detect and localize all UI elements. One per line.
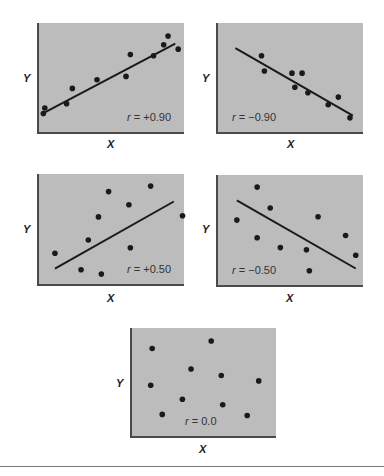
regression-line bbox=[235, 48, 352, 116]
bottom-divider bbox=[0, 466, 384, 467]
data-point bbox=[159, 412, 165, 418]
y-axis-label: Y bbox=[116, 377, 123, 389]
r-value: = 0.0 bbox=[192, 415, 217, 427]
data-point bbox=[123, 74, 129, 80]
r-symbol: r bbox=[232, 264, 236, 276]
data-point bbox=[325, 102, 331, 108]
data-point bbox=[307, 268, 313, 274]
data-point bbox=[128, 52, 134, 58]
data-point bbox=[94, 77, 100, 83]
scatter-panel-r-plus-090: r = +0.90 bbox=[37, 23, 184, 134]
data-point bbox=[52, 250, 58, 256]
data-point bbox=[292, 85, 298, 91]
data-point bbox=[86, 237, 92, 243]
y-axis-label: Y bbox=[202, 223, 209, 235]
data-point bbox=[299, 70, 305, 76]
y-axis-label: Y bbox=[23, 72, 30, 84]
data-point bbox=[180, 213, 186, 219]
r-value: = −0.90 bbox=[239, 111, 276, 123]
data-point bbox=[180, 396, 186, 402]
data-point bbox=[254, 235, 260, 241]
data-point bbox=[259, 53, 265, 59]
data-point bbox=[42, 105, 48, 111]
data-point bbox=[188, 366, 194, 372]
y-axis-label: Y bbox=[23, 223, 30, 235]
r-symbol: r bbox=[185, 415, 189, 427]
data-point bbox=[220, 402, 226, 408]
r-value: = +0.50 bbox=[134, 263, 171, 275]
data-point bbox=[267, 205, 273, 211]
data-point bbox=[208, 338, 214, 344]
r-symbol: r bbox=[127, 263, 131, 275]
data-point bbox=[149, 346, 155, 352]
data-point bbox=[304, 247, 310, 253]
data-point bbox=[315, 214, 321, 220]
r-symbol: r bbox=[127, 111, 131, 123]
x-axis-label: X bbox=[107, 138, 114, 150]
data-point bbox=[99, 271, 105, 277]
data-point bbox=[64, 101, 70, 107]
data-point bbox=[347, 115, 353, 121]
correlation-label: r = +0.90 bbox=[127, 111, 171, 123]
data-point bbox=[161, 42, 167, 48]
data-point bbox=[262, 68, 268, 74]
regression-line bbox=[55, 202, 174, 269]
data-point bbox=[343, 233, 349, 239]
correlation-label: r = −0.90 bbox=[232, 111, 276, 123]
correlation-label: r = 0.0 bbox=[185, 415, 217, 427]
correlation-label: r = −0.50 bbox=[232, 264, 276, 276]
data-point bbox=[305, 90, 311, 96]
data-point bbox=[353, 253, 359, 259]
scatter-panel-r-minus-050: r = −0.50 bbox=[216, 175, 363, 287]
data-point bbox=[128, 245, 134, 251]
data-point bbox=[278, 245, 284, 251]
data-point bbox=[151, 53, 157, 59]
x-axis-label: X bbox=[199, 443, 206, 455]
data-point bbox=[244, 413, 250, 419]
scatter-panel-r-minus-090: r = −0.90 bbox=[216, 23, 363, 134]
scatter-panel-r-plus-050: r = +0.50 bbox=[37, 174, 184, 286]
regression-line bbox=[237, 200, 356, 268]
data-point bbox=[126, 202, 132, 208]
correlation-label: r = +0.50 bbox=[127, 263, 171, 275]
data-point bbox=[41, 111, 47, 117]
data-point bbox=[175, 46, 181, 52]
data-point bbox=[165, 33, 171, 39]
y-axis-label: Y bbox=[202, 72, 209, 84]
data-point bbox=[256, 378, 262, 384]
data-point bbox=[289, 70, 295, 76]
data-point bbox=[234, 217, 240, 223]
data-point bbox=[96, 214, 102, 220]
data-point bbox=[336, 94, 342, 100]
data-point bbox=[70, 86, 76, 92]
data-point bbox=[148, 183, 154, 189]
r-symbol: r bbox=[232, 111, 236, 123]
scatter-panel-r-zero: r = 0.0 bbox=[130, 328, 276, 438]
x-axis-label: X bbox=[287, 138, 294, 150]
r-value: = +0.90 bbox=[134, 111, 171, 123]
r-value: = −0.50 bbox=[239, 264, 276, 276]
data-point bbox=[148, 382, 154, 388]
data-point bbox=[218, 373, 224, 379]
data-point bbox=[106, 189, 112, 195]
x-axis-label: X bbox=[107, 292, 114, 304]
data-point bbox=[78, 267, 84, 273]
data-point bbox=[254, 184, 260, 190]
x-axis-label: X bbox=[286, 292, 293, 304]
